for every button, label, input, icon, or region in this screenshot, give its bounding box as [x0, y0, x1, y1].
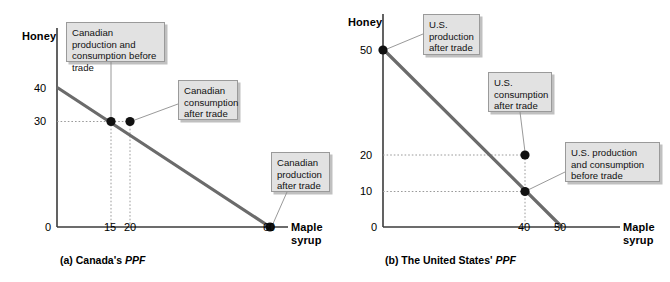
panel-b-point-consumption-after-trade: [520, 150, 529, 159]
panel-a-y-axis-label: Honey: [22, 30, 56, 42]
panel-a-x-axis-label-line2: syrup: [291, 234, 321, 246]
callout-canada-consumption-after-trade: Canadian consumption after trade: [178, 80, 238, 120]
panel-a-point-consumption-after-trade: [125, 117, 134, 126]
panel-a-leader-consumption-after: [132, 104, 178, 121]
callout-canada-before-trade: Canadian production and consumption befo…: [66, 22, 165, 62]
panel-b-graph: [378, 14, 620, 227]
panel-b-point-before-trade: [520, 187, 529, 196]
panel-b-caption-ppf: PPF: [495, 254, 515, 266]
panel-b-leader-before-trade: [528, 172, 565, 190]
panel-b-y-axis-label: Honey: [348, 16, 382, 28]
panel-b-x-axis-label-line1: Maple: [623, 221, 655, 233]
callout-canada-production-after-trade: Canadian production after trade: [271, 152, 330, 192]
panel-a-xtick-15: 15: [104, 221, 116, 233]
panel-b-xtick-50: 50: [554, 221, 566, 233]
panel-b-caption-text: (b) The United States': [385, 254, 495, 266]
panel-b-ytick-20: 20: [360, 149, 372, 161]
panel-a-ytick-30: 30: [34, 115, 46, 127]
panel-b-origin-label: 0: [371, 221, 377, 233]
panel-b-caption: (b) The United States' PPF: [385, 254, 516, 266]
panel-b-point-production-after-trade: [378, 45, 387, 54]
panel-a-caption: (a) Canada's PPF: [60, 254, 145, 266]
panel-a-caption-ppf: PPF: [125, 254, 145, 266]
panel-a-xtick-60: 60: [263, 221, 275, 233]
panel-a-xtick-20: 20: [124, 221, 136, 233]
callout-us-consumption-after-trade: U.S. consumption after trade: [488, 72, 552, 112]
panel-a-ytick-40: 40: [34, 82, 46, 94]
panel-a-x-axis-label-line1: Maple: [291, 221, 323, 233]
panel-a-origin-label: 0: [45, 221, 51, 233]
panel-b-xtick-40: 40: [518, 221, 530, 233]
panel-a-point-before-trade: [106, 117, 115, 126]
panel-a-caption-text: (a) Canada's: [60, 254, 125, 266]
panel-b-ytick-50: 50: [360, 44, 372, 56]
callout-us-production-after-trade: U.S. production after trade: [423, 14, 480, 55]
panel-b-x-axis-label: Maple syrup: [623, 221, 667, 246]
panel-a-x-axis-label: Maple syrup: [291, 221, 333, 246]
callout-us-before-trade: U.S. production and consumption before t…: [565, 142, 660, 182]
panel-b-leader-consumption-after: [520, 112, 525, 152]
ppf-comparison-figure: Honey Maple syrup 0 40 30 15 20 60 (a) C…: [0, 0, 670, 282]
panel-b-ytick-10: 10: [360, 185, 372, 197]
panel-b-leader-production-after: [387, 34, 423, 49]
panel-b-x-axis-label-line2: syrup: [623, 234, 653, 246]
